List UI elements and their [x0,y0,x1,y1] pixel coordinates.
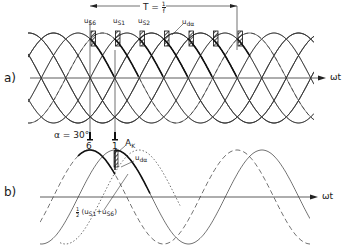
part-b-plot [40,132,318,244]
thyristor-6-label: 6 [86,142,92,151]
part-a-axis-label: ωt [330,73,341,82]
output-voltage-label-b: udα [135,155,147,163]
phase-label-us6: uS6 [84,18,96,26]
part-a-plot [28,4,326,132]
phase-label-us1: uS1 [113,18,125,26]
commutation-area-label: AK [125,139,135,149]
thyristor-1-marker [112,132,118,141]
output-voltage-label-a: udα [182,19,194,27]
rectifier-waveform-diagram [0,0,354,245]
phase-label-us2: uS2 [138,18,150,26]
output-voltage-leader-b [121,161,134,167]
thyristor-1-label: 1 [112,142,118,151]
part-a-output-envelope [90,39,250,77]
part-a-label: a) [4,72,16,84]
period-arrow-right-icon [230,4,237,8]
part-b-axis-arrow-icon [310,195,318,200]
part-a-axis-arrow-icon [318,76,326,81]
part-b-label: b) [4,186,16,198]
mean-voltage-label: 1 2 (uS1+uS6) [76,207,117,218]
firing-angle-label: α = 30° [54,131,89,140]
period-frac-den: f [162,8,166,14]
period-label-t: T = [143,2,159,12]
period-label: T = 1 f [143,1,166,14]
period-arrow-left-icon [90,4,97,8]
part-b-axis-label: ωt [322,192,333,201]
